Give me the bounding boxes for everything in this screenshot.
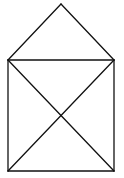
house-diagram: [0, 0, 124, 178]
diagram-edges: [8, 4, 114, 171]
edge-apex-top_right: [61, 4, 114, 60]
edge-apex-top_left: [8, 4, 61, 60]
